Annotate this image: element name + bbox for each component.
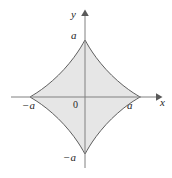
y-negative-tick-label: −a	[63, 152, 76, 163]
astroid-plot-canvas	[0, 0, 172, 178]
astroid-figure: y x a −a −a a 0	[0, 0, 172, 178]
y-axis-label: y	[71, 9, 76, 20]
x-negative-tick-label: −a	[22, 100, 35, 111]
y-positive-tick-label: a	[71, 30, 77, 41]
origin-label: 0	[73, 100, 78, 110]
x-positive-tick-label: a	[127, 100, 133, 111]
x-axis-label: x	[160, 97, 165, 108]
